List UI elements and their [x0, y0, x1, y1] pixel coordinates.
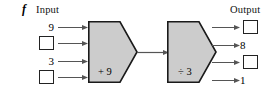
input-arrow-1 — [58, 24, 88, 31]
output-value-2: 8 — [240, 37, 260, 53]
machine-link-arrow — [137, 49, 169, 56]
input-arrow-2 — [58, 40, 88, 47]
figure-part-label: f — [22, 3, 26, 15]
output-box-1[interactable] — [243, 20, 258, 34]
input-arrow-4 — [58, 74, 88, 81]
input-arrow-3 — [58, 58, 88, 65]
input-box-4[interactable] — [39, 70, 54, 84]
output-arrow-4 — [212, 77, 240, 84]
divide-by-three-machine: ÷ 3 — [167, 21, 217, 83]
input-heading: Input — [36, 4, 59, 16]
output-box-3[interactable] — [243, 55, 258, 69]
add-nine-machine-label: + 9 — [98, 66, 112, 77]
output-arrow-1 — [212, 24, 240, 31]
output-arrow-2 — [212, 42, 240, 49]
input-value-1: 9 — [34, 19, 54, 35]
input-box-2[interactable] — [39, 36, 54, 50]
function-machine-diagram: f Input Output 9 3 + 9 — [0, 0, 280, 94]
output-value-4: 1 — [240, 72, 260, 88]
divide-by-three-machine-label: ÷ 3 — [178, 66, 192, 77]
add-nine-machine: + 9 — [88, 21, 138, 83]
output-heading: Output — [230, 4, 260, 16]
output-arrow-3 — [212, 59, 240, 66]
input-value-3: 3 — [34, 53, 54, 69]
